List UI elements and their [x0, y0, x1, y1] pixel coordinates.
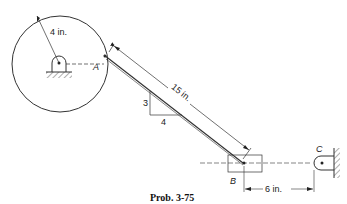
connecting-rod [104, 55, 243, 165]
offset-label: 6 in. [265, 184, 282, 194]
link-length-label: 15 in. [169, 82, 193, 103]
point-c-label: C [316, 144, 323, 154]
radius-dimension: 4 in. [37, 16, 67, 63]
slope-triangle: 3 4 [143, 91, 182, 127]
figure-caption: Prob. 3-75 [150, 192, 194, 203]
link-length-dimension: 15 in. [109, 44, 251, 159]
pivot-c-support: C [314, 144, 340, 178]
wheel-pivot-support [46, 56, 72, 78]
slider-block-b: B [200, 155, 312, 186]
slope-run-label: 4 [161, 117, 166, 127]
mechanism-diagram: 4 in. A 15 in. 3 4 B C [0, 0, 347, 204]
slope-rise-label: 3 [143, 98, 148, 108]
radius-label: 4 in. [50, 27, 67, 37]
offset-dimension: 6 in. [244, 166, 314, 194]
point-a-label: A [92, 62, 99, 72]
point-b-label: B [230, 176, 236, 186]
